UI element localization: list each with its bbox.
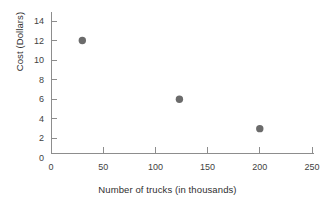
axes-group: [51, 12, 314, 153]
y-axis-tick-label: 2: [18, 134, 44, 143]
data-point: [176, 96, 183, 103]
data-point: [79, 37, 86, 44]
data-point: [256, 125, 263, 132]
x-axis-tick-label: 150: [200, 163, 215, 172]
x-axis-tick-label: 100: [148, 163, 163, 172]
x-axis-tick-label: 0: [48, 163, 53, 172]
x-axis-ticks: [103, 147, 312, 153]
chart-canvas: [0, 0, 335, 205]
y-axis-ticks: [51, 21, 57, 138]
y-axis-title: Cost (Dollars): [14, 0, 25, 102]
y-axis-tick-label: 0: [18, 154, 44, 163]
x-axis-tick-label: 250: [304, 163, 319, 172]
data-point-markers: [79, 37, 264, 132]
x-axis-tick-label: 200: [252, 163, 267, 172]
scatter-chart: 02468101214 050100150200250 Number of tr…: [0, 0, 335, 205]
x-axis-title: Number of trucks (in thousands): [0, 184, 335, 195]
y-axis-tick-label: 4: [18, 114, 44, 123]
x-axis-tick-label: 50: [98, 163, 108, 172]
